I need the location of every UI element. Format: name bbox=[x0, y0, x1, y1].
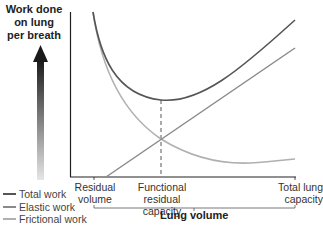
legend: Total work Elastic work Frictional work bbox=[3, 188, 87, 226]
legend-item-elastic-work: Elastic work bbox=[3, 201, 87, 214]
legend-item-total-work: Total work bbox=[3, 188, 87, 201]
x-axis-title: Lung volume bbox=[160, 209, 228, 221]
total-work-curve bbox=[93, 12, 295, 100]
legend-item-frictional-work: Frictional work bbox=[3, 213, 87, 226]
frictional-work-curve bbox=[93, 12, 295, 163]
increase-arrow-icon bbox=[33, 45, 48, 180]
tick-total-lung-capacity: Total lungcapacity bbox=[268, 181, 323, 205]
